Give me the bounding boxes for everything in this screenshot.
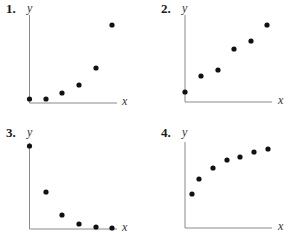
data-point — [215, 67, 220, 72]
data-point — [59, 212, 64, 217]
data-point — [224, 157, 229, 162]
data-point — [93, 65, 98, 70]
data-point — [27, 96, 32, 101]
data-point — [76, 82, 81, 87]
data-point — [198, 73, 203, 78]
scatter-plot-3 — [27, 143, 117, 231]
scatter-plot-2 — [182, 15, 272, 102]
data-point — [43, 96, 48, 101]
data-point — [109, 22, 114, 27]
data-point — [231, 46, 236, 51]
data-point — [265, 146, 270, 151]
data-point — [248, 38, 253, 43]
data-point — [189, 191, 194, 196]
data-point — [251, 149, 256, 154]
data-point — [43, 189, 48, 194]
data-point — [59, 90, 64, 95]
data-point — [210, 165, 215, 170]
data-point — [196, 176, 201, 181]
scatter-plot-4 — [185, 142, 272, 228]
data-point — [27, 143, 32, 148]
data-point — [109, 225, 114, 230]
data-point — [76, 221, 81, 226]
data-point — [93, 224, 98, 229]
scatter-plots-canvas — [0, 0, 292, 239]
data-point — [237, 154, 242, 159]
scatter-plot-1 — [27, 15, 117, 103]
data-point — [264, 22, 269, 27]
data-point — [182, 89, 187, 94]
